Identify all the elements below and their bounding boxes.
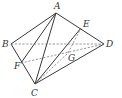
geometry-diagram: ABCDEFG <box>0 0 122 98</box>
point-label-a: A <box>53 1 61 11</box>
point-label-b: B <box>1 39 9 49</box>
dashed-segment-ge <box>68 28 81 53</box>
point-labels: ABCDEFG <box>1 1 113 98</box>
segment-af <box>21 13 56 63</box>
point-label-g: G <box>68 53 75 63</box>
point-label-f: F <box>13 61 21 71</box>
dashed-segment-fd <box>21 44 104 63</box>
point-label-d: D <box>105 39 113 49</box>
segment-ab <box>11 13 56 44</box>
point-label-e: E <box>82 19 90 29</box>
point-label-c: C <box>31 88 38 98</box>
solid-edges <box>11 13 104 84</box>
